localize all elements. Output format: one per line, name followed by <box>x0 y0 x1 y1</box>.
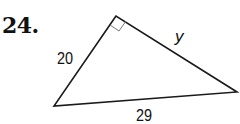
side-label-left-leg: 20 <box>57 50 73 67</box>
side-label-right-leg: y <box>175 28 184 45</box>
triangle-outline <box>54 16 237 106</box>
side-label-hypotenuse: 29 <box>136 107 152 124</box>
right-triangle-figure <box>0 0 240 124</box>
